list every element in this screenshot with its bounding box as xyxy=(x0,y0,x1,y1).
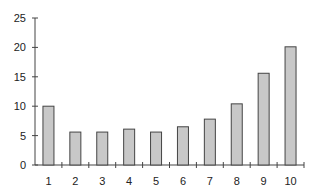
x-tick-label: 10 xyxy=(284,175,296,187)
bar xyxy=(151,132,162,165)
bar xyxy=(204,119,215,165)
x-tick-label: 9 xyxy=(261,175,267,187)
bar-chart: 0510152025 12345678910 xyxy=(0,0,321,195)
x-tick-label: 5 xyxy=(153,175,159,187)
x-tick-label: 8 xyxy=(234,175,240,187)
y-tick-label: 25 xyxy=(14,12,26,24)
bar xyxy=(177,127,188,165)
bar xyxy=(70,132,81,165)
y-tick-label: 10 xyxy=(14,100,26,112)
x-tick-label: 4 xyxy=(126,175,132,187)
x-axis: 12345678910 xyxy=(35,162,304,187)
bars xyxy=(43,47,296,165)
x-tick-label: 3 xyxy=(99,175,105,187)
y-tick-label: 15 xyxy=(14,71,26,83)
y-axis: 0510152025 xyxy=(14,12,38,171)
y-tick-label: 5 xyxy=(20,130,26,142)
x-tick-label: 1 xyxy=(45,175,51,187)
bar xyxy=(285,47,296,165)
bar xyxy=(124,129,135,165)
bar xyxy=(97,132,108,165)
x-tick-label: 7 xyxy=(207,175,213,187)
bar xyxy=(43,106,54,165)
bar xyxy=(231,104,242,165)
bar xyxy=(258,73,269,165)
y-tick-label: 20 xyxy=(14,41,26,53)
x-tick-label: 6 xyxy=(180,175,186,187)
y-tick-label: 0 xyxy=(20,159,26,171)
x-tick-label: 2 xyxy=(72,175,78,187)
